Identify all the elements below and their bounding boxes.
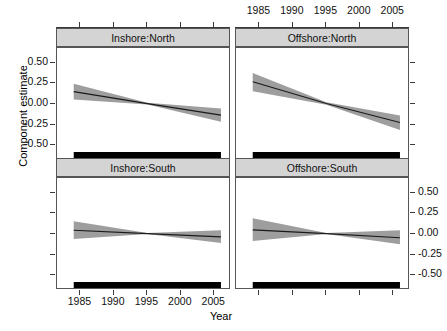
y-tick-label-right: 0.25 [418,206,447,217]
y-tick-label-right: 0.00 [418,227,447,238]
fitted-line [74,92,221,115]
axis-tick [410,124,415,125]
strip-label: Offshore:South [287,162,357,174]
rug-plot [74,282,221,289]
axis-tick [410,82,415,83]
axis-tick [410,103,415,104]
panel-plot-area [57,178,230,289]
y-tick-label-right: -0.25 [418,248,447,259]
strip-label: Offshore:North [288,32,357,44]
axis-tick [410,144,415,145]
panel-offshore-north [235,47,409,159]
confidence-band [253,73,400,130]
rug-plot [74,152,221,159]
strip-offshore-south: Offshore:South [235,158,409,177]
strip-inshore-south: Inshore:South [56,158,230,177]
strip-label: Inshore:North [111,32,175,44]
axis-tick [410,254,415,255]
panel-inshore-south [56,177,230,289]
panel-plot-area [57,48,230,159]
fitted-line [253,82,400,123]
axis-tick [410,233,415,234]
axis-tick [410,274,415,275]
axis-tick [410,212,415,213]
rug-plot [253,282,400,289]
y-tick-label-right: -0.50 [418,268,447,279]
panel-offshore-south [235,177,409,289]
confidence-band [74,221,221,243]
confidence-band [74,84,221,122]
strip-label: Inshore:South [110,162,175,174]
axis-tick [410,62,415,63]
strip-offshore-north: Offshore:North [235,28,409,47]
rug-plot [253,152,400,159]
strip-inshore-north: Inshore:North [56,28,230,47]
panel-plot-area [236,178,409,289]
axis-tick [410,192,415,193]
panel-inshore-north [56,47,230,159]
panel-plot-area [236,48,409,159]
y-tick-label-right: 0.50 [418,186,447,197]
